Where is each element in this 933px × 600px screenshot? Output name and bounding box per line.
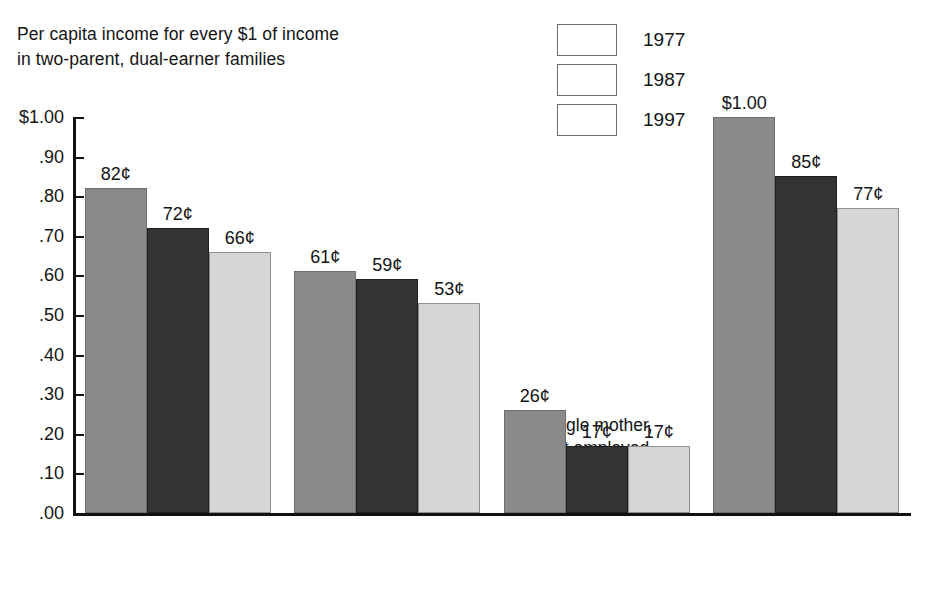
y-axis-tick (73, 236, 84, 238)
y-axis-tick (73, 117, 84, 119)
y-axis-tick (73, 196, 84, 198)
bar-value-label: 82¢ (101, 164, 131, 185)
legend-swatch-1987 (557, 64, 617, 96)
y-axis-tick-label: .40 (39, 344, 64, 365)
bar-value-label: 26¢ (520, 386, 550, 407)
bar-1987-group-4: 85¢ (775, 176, 837, 513)
y-axis-tick-label: .30 (39, 384, 64, 405)
y-axis-tick (73, 513, 84, 515)
y-axis-tick-label: .00 (39, 503, 64, 524)
y-axis-tick-label: .50 (39, 305, 64, 326)
y-axis-tick-label: .60 (39, 265, 64, 286)
x-axis-line (73, 513, 911, 516)
bar-value-label: 61¢ (310, 247, 340, 268)
bar-value-label: 85¢ (791, 152, 821, 173)
bar-1987-group-3: 17¢ (566, 446, 628, 513)
legend-label-1987: 1987 (643, 69, 685, 91)
y-axis-tick-label: .10 (39, 463, 64, 484)
legend-label-1977: 1977 (643, 29, 685, 51)
y-axis-tick (73, 394, 84, 396)
y-axis-tick-label: .20 (39, 423, 64, 444)
plot-area: $1.00.90.80.70.60.50.40.30.20.10.00 82¢7… (73, 117, 911, 513)
bar-1997-group-2: 53¢ (418, 303, 480, 513)
y-axis-tick-label: .90 (39, 146, 64, 167)
bar-1997-group-3: 17¢ (628, 446, 690, 513)
bar-1977-group-1: 82¢ (85, 188, 147, 513)
bar-value-label: 66¢ (225, 228, 255, 249)
bar-1977-group-2: 61¢ (294, 271, 356, 513)
bar-1977-group-4: $1.00 (713, 117, 775, 513)
y-axis-tick-label: $1.00 (19, 107, 64, 128)
bar-value-label: $1.00 (722, 93, 767, 114)
bar-value-label: 53¢ (434, 279, 464, 300)
y-axis-tick (73, 315, 84, 317)
bar-1987-group-2: 59¢ (356, 279, 418, 513)
legend-swatch-1977 (557, 24, 617, 56)
bar-value-label: 59¢ (372, 255, 402, 276)
y-axis-tick (73, 275, 84, 277)
chart-title: Per capita income for every $1 of income… (17, 22, 487, 72)
bar-value-label: 17¢ (582, 422, 612, 443)
bar-1997-group-4: 77¢ (837, 208, 899, 513)
bar-1987-group-1: 72¢ (147, 228, 209, 513)
bar-1997-group-1: 66¢ (209, 252, 271, 513)
bar-value-label: 72¢ (163, 204, 193, 225)
y-axis-tick (73, 157, 84, 159)
bar-value-label: 17¢ (644, 422, 674, 443)
legend-item-1987: 1987 (557, 62, 685, 98)
y-axis-tick (73, 434, 84, 436)
y-axis-tick-label: .70 (39, 225, 64, 246)
bar-value-label: 77¢ (853, 184, 883, 205)
y-axis-tick (73, 355, 84, 357)
legend-item-1977: 1977 (557, 22, 685, 58)
y-axis-tick-label: .80 (39, 186, 64, 207)
chart-title-line-2: in two-parent, dual-earner families (17, 47, 487, 72)
chart-title-line-1: Per capita income for every $1 of income (17, 22, 487, 47)
y-axis-tick (73, 473, 84, 475)
bar-1977-group-3: 26¢ (504, 410, 566, 513)
